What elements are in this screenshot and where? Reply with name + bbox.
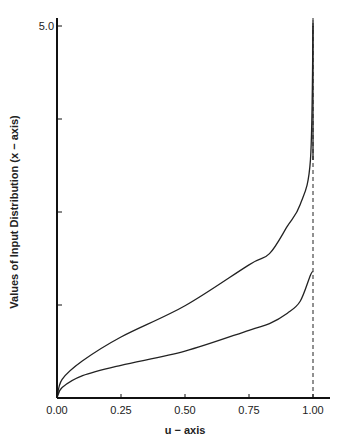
x-axis: 0.000.250.500.751.00 bbox=[46, 394, 330, 416]
y-axis: 5.0 bbox=[39, 18, 62, 398]
chart: 0.000.250.500.751.00 5.0 u − axis Values… bbox=[0, 0, 344, 443]
y-tick-label: 5.0 bbox=[39, 20, 54, 32]
plot-area bbox=[57, 18, 313, 398]
x-tick-label: 0.00 bbox=[46, 404, 67, 416]
x-tick-label: 0.25 bbox=[110, 404, 131, 416]
lower-curve bbox=[57, 272, 313, 398]
x-tick-label: 0.75 bbox=[238, 404, 259, 416]
y-axis-title: Values of Input Distribution (x − axis) bbox=[8, 115, 20, 309]
x-tick-label: 0.50 bbox=[174, 404, 195, 416]
x-tick-label: 1.00 bbox=[302, 404, 323, 416]
upper-curve bbox=[57, 26, 313, 398]
x-axis-title: u − axis bbox=[165, 424, 206, 436]
